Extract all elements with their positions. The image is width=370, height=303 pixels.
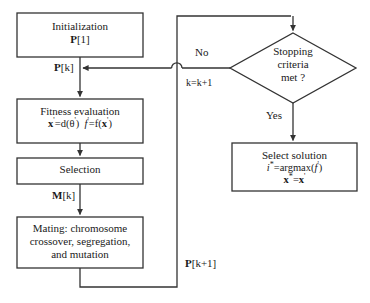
edge-label-increment: k=k+1 [186,78,212,88]
fitness-evaluation-box[interactable] [17,99,143,143]
stopping-criteria-decision[interactable] [230,33,356,103]
edge-label-yes: Yes [266,110,282,121]
edge-label-pk1: P[k+1] [185,258,216,269]
flowchart-canvas: Initialization P[1] Fitness evaluation x… [0,0,370,303]
edge-label-pk: P[k] [54,62,74,73]
selection-box[interactable] [17,158,143,184]
mating-box[interactable] [17,217,143,268]
select-solution-box[interactable] [232,143,357,191]
edge-label-mk: M[k] [52,190,75,201]
initialization-box[interactable] [17,13,143,57]
edge-label-no: No [195,47,208,58]
